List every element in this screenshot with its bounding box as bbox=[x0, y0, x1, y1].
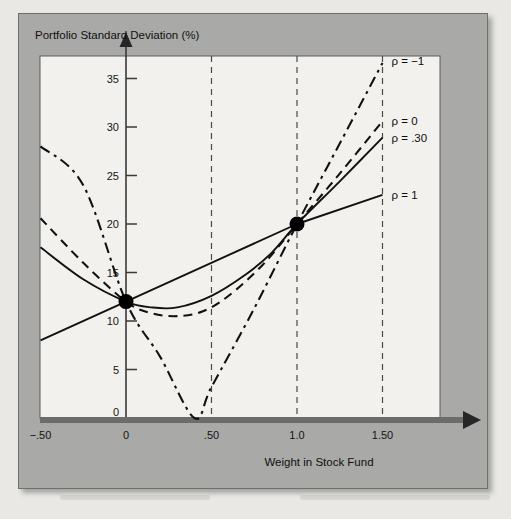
x-axis-arrowhead bbox=[463, 411, 481, 429]
series-label-1: ρ = 0 bbox=[392, 115, 418, 127]
bleed-text-line bbox=[60, 495, 210, 500]
bleed-text-line bbox=[300, 495, 490, 500]
plot-area-background bbox=[40, 56, 440, 418]
x-tick-label-1_5: 1.50 bbox=[372, 429, 393, 441]
y-tick-label-10: 10 bbox=[107, 315, 119, 327]
marker-point-0 bbox=[119, 294, 134, 309]
x-axis-title: Weight in Stock Fund bbox=[264, 456, 373, 468]
figure-panel: 5101520253035 −.500.501.01.50 ρ = −1ρ = … bbox=[18, 13, 488, 489]
portfolio-standard-deviation-chart: 5101520253035 −.500.501.01.50 ρ = −1ρ = … bbox=[19, 14, 487, 488]
x-axis-ticks: −.500.501.01.50 bbox=[30, 429, 394, 441]
y-tick-label-20: 20 bbox=[107, 218, 119, 230]
series-label-3: ρ = 1 bbox=[392, 189, 418, 201]
x-tick-label-1: 1.0 bbox=[289, 429, 304, 441]
y-tick-label-5: 5 bbox=[113, 364, 119, 376]
x-tick-label-neg0_5: −.50 bbox=[30, 429, 52, 441]
marker-point-1 bbox=[290, 217, 305, 232]
origin-label: 0 bbox=[113, 406, 119, 418]
x-tick-label-0_5: .50 bbox=[204, 429, 219, 441]
y-tick-label-30: 30 bbox=[107, 121, 119, 133]
x-tick-label-0: 0 bbox=[123, 429, 129, 441]
series-label-0: ρ = −1 bbox=[392, 55, 425, 67]
series-label-2: ρ = .30 bbox=[392, 132, 428, 144]
y-axis-title: Portfolio Standard Deviation (%) bbox=[35, 29, 199, 41]
y-tick-label-25: 25 bbox=[107, 170, 119, 182]
y-tick-label-35: 35 bbox=[107, 73, 119, 85]
